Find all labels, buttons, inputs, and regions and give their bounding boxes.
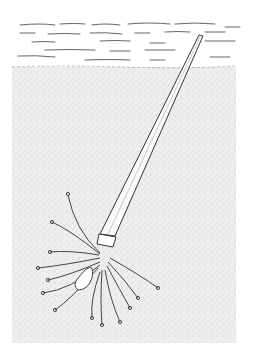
water-lines	[18, 23, 240, 60]
organism-drawing	[0, 0, 255, 357]
illustration	[0, 0, 255, 357]
